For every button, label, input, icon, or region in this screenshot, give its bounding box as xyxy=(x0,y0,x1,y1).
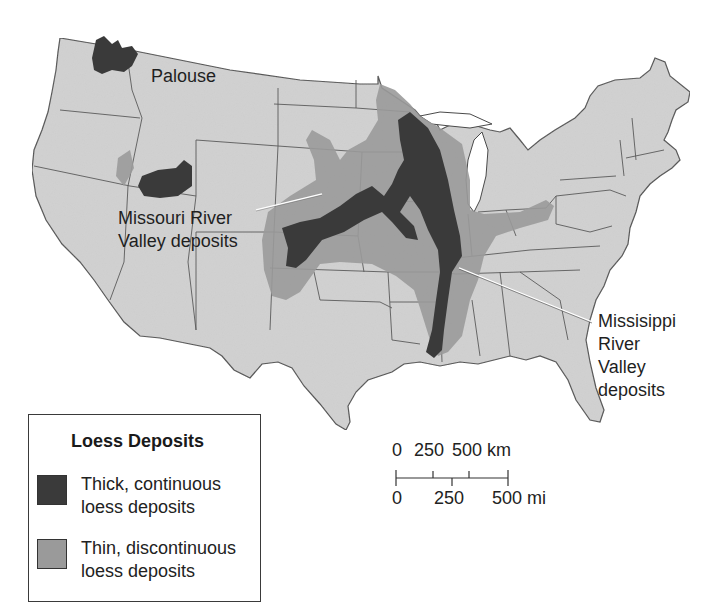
legend-swatch-thin xyxy=(37,539,67,569)
legend-title: Loess Deposits xyxy=(71,431,204,452)
legend-item-thick: Thick, continuous loess deposits xyxy=(81,473,221,519)
mississippi-label-line4: deposits xyxy=(598,380,665,401)
scale-bar-ruler xyxy=(392,466,552,488)
legend-thick-line1: Thick, continuous xyxy=(81,473,221,496)
palouse-label: Palouse xyxy=(151,66,216,87)
scale-mi-500: 500 mi xyxy=(492,488,546,509)
legend: Loess Deposits Thick, continuous loess d… xyxy=(28,414,261,602)
legend-thick-line2: loess deposits xyxy=(81,496,221,519)
legend-thin-line1: Thin, discontinuous xyxy=(81,537,236,560)
legend-swatch-thick xyxy=(37,475,67,505)
mississippi-label-line3: Valley xyxy=(598,357,646,378)
scale-km-0: 0 xyxy=(392,440,402,461)
missouri-label-line2: Valley deposits xyxy=(118,231,238,252)
mississippi-label-line2: River xyxy=(598,334,640,355)
scale-mi-250: 250 xyxy=(434,488,464,509)
scale-km-500: 500 km xyxy=(452,440,511,461)
missouri-label-line1: Missouri River xyxy=(118,208,232,229)
scale-km-250: 250 xyxy=(414,440,444,461)
legend-item-thin: Thin, discontinuous loess deposits xyxy=(81,537,236,583)
scale-bar: 0 250 500 km 0 250 500 mi xyxy=(392,440,562,500)
scale-mi-0: 0 xyxy=(392,488,402,509)
mississippi-label-line1: Missisippi xyxy=(598,311,676,332)
legend-thin-line2: loess deposits xyxy=(81,560,236,583)
